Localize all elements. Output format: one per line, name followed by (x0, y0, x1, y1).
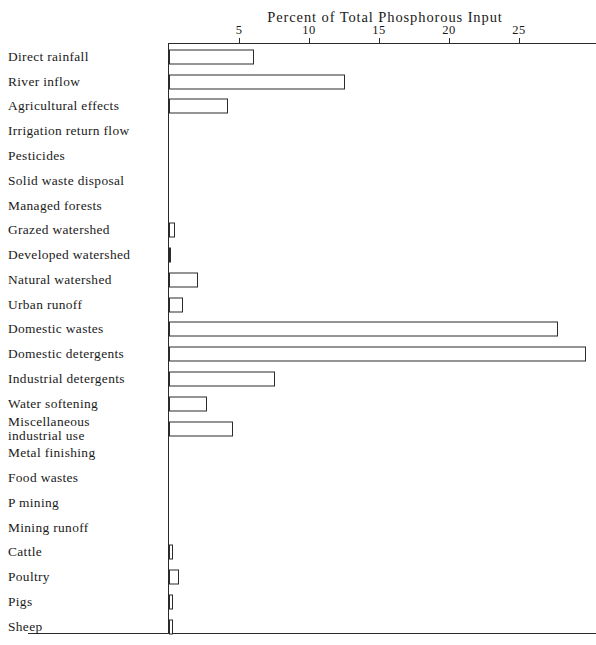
bar-row: Industrial detergents (0, 367, 596, 392)
phosphorous-input-bar-chart: Percent of Total Phosphorous Input 51015… (0, 0, 596, 645)
category-label: Managed forests (8, 199, 168, 213)
category-label-slot: Industrial detergents (18, 367, 168, 392)
bar-row: Natural watershed (0, 268, 596, 293)
category-label-slot: River inflow (18, 69, 168, 94)
category-label: Poultry (8, 570, 168, 584)
bar (169, 396, 207, 411)
category-label: Developed watershed (8, 248, 168, 262)
category-label: River inflow (8, 75, 168, 89)
category-label-slot: Miscellaneous industrial use (18, 416, 168, 441)
bar-row: Mining runoff (0, 515, 596, 540)
category-label: Direct rainfall (8, 50, 168, 64)
bar (169, 272, 198, 287)
category-label-slot: Metal finishing (18, 441, 168, 466)
category-label-slot: Poultry (18, 565, 168, 590)
category-label: Sheep (8, 620, 168, 634)
category-label-slot: P mining (18, 491, 168, 516)
bar (169, 347, 586, 362)
category-label: Mining runoff (8, 521, 168, 535)
category-label-slot: Water softening (18, 391, 168, 416)
category-label: Agricultural effects (8, 99, 168, 113)
bar-row: Water softening (0, 391, 596, 416)
x-axis-tick-label-25: 25 (512, 23, 525, 38)
category-label: Pesticides (8, 149, 168, 163)
bar-row: Developed watershed (0, 243, 596, 268)
bar (169, 99, 228, 114)
bar (169, 49, 254, 64)
category-label: Miscellaneous industrial use (8, 415, 168, 443)
category-label: Irrigation return flow (8, 124, 168, 138)
category-label: P mining (8, 496, 168, 510)
bar-row: Cattle (0, 540, 596, 565)
bar (169, 74, 345, 89)
bar-row: Metal finishing (0, 441, 596, 466)
category-label-slot: Agricultural effects (18, 94, 168, 119)
category-label-slot: Pesticides (18, 144, 168, 169)
bar (169, 248, 171, 263)
category-label-slot: Sheep (18, 614, 168, 639)
category-label: Domestic detergents (8, 347, 168, 361)
bar-row: Agricultural effects (0, 94, 596, 119)
category-label-slot: Direct rainfall (18, 45, 168, 70)
category-label-slot: Irrigation return flow (18, 119, 168, 144)
bar-row: Grazed watershed (0, 218, 596, 243)
bar-row: Food wastes (0, 466, 596, 491)
category-label: Industrial detergents (8, 372, 168, 386)
bar (169, 421, 233, 436)
bar-row: Solid waste disposal (0, 168, 596, 193)
category-label-slot: Cattle (18, 540, 168, 565)
bar-row: Domestic wastes (0, 317, 596, 342)
bar (169, 595, 173, 610)
category-label-slot: Developed watershed (18, 243, 168, 268)
bar-row: Poultry (0, 565, 596, 590)
bar (169, 297, 183, 312)
x-axis-tick-label-10: 10 (302, 23, 315, 38)
category-label-slot: Domestic wastes (18, 317, 168, 342)
bar-row: Pigs (0, 590, 596, 615)
category-label: Cattle (8, 545, 168, 559)
category-label: Metal finishing (8, 446, 168, 460)
category-label-slot: Grazed watershed (18, 218, 168, 243)
bar-row: River inflow (0, 69, 596, 94)
category-label: Natural watershed (8, 273, 168, 287)
bar-row: Pesticides (0, 144, 596, 169)
category-label-slot: Urban runoff (18, 292, 168, 317)
bar (169, 372, 275, 387)
bar-row: Domestic detergents (0, 342, 596, 367)
category-label: Urban runoff (8, 298, 168, 312)
category-label: Pigs (8, 595, 168, 609)
category-label-slot: Domestic detergents (18, 342, 168, 367)
category-label-slot: Natural watershed (18, 268, 168, 293)
bar (169, 570, 179, 585)
category-label: Grazed watershed (8, 223, 168, 237)
bar (169, 223, 175, 238)
x-axis-tick-label-15: 15 (372, 23, 385, 38)
category-label-slot: Pigs (18, 590, 168, 615)
category-label: Solid waste disposal (8, 174, 168, 188)
category-label-slot: Solid waste disposal (18, 168, 168, 193)
category-label: Domestic wastes (8, 322, 168, 336)
bar (169, 322, 558, 337)
category-label: Food wastes (8, 471, 168, 485)
bar-row: Miscellaneous industrial use (0, 416, 596, 441)
bar (169, 619, 173, 634)
bar (169, 545, 173, 560)
bar-row: Direct rainfall (0, 45, 596, 70)
bar-row: Irrigation return flow (0, 119, 596, 144)
category-label-slot: Managed forests (18, 193, 168, 218)
category-label-slot: Food wastes (18, 466, 168, 491)
category-label-slot: Mining runoff (18, 515, 168, 540)
x-axis-tick-label-5: 5 (236, 23, 243, 38)
bar-row: Urban runoff (0, 292, 596, 317)
category-label: Water softening (8, 397, 168, 411)
bar-row: P mining (0, 491, 596, 516)
bar-row: Managed forests (0, 193, 596, 218)
x-axis-tick-label-20: 20 (442, 23, 455, 38)
bar-row: Sheep (0, 614, 596, 639)
